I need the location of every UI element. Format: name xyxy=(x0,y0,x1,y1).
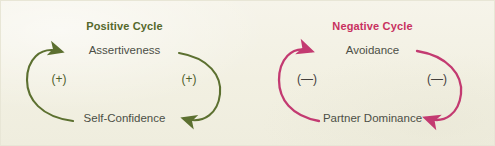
negative-cycle-sign-left: (—) xyxy=(287,72,327,86)
negative-cycle-node-bottom: Partner Dominance xyxy=(249,112,495,124)
positive-cycle-group: Positive Cycle Assertiveness Self-Confid… xyxy=(1,1,248,146)
positive-cycle-node-bottom: Self-Confidence xyxy=(1,112,248,124)
positive-cycle-node-top: Assertiveness xyxy=(1,44,248,56)
diagram-canvas: Positive Cycle Assertiveness Self-Confid… xyxy=(0,0,495,146)
negative-cycle-node-top: Avoidance xyxy=(249,44,495,56)
positive-cycle-title: Positive Cycle xyxy=(1,20,248,32)
positive-cycle-sign-right: (+) xyxy=(169,72,209,86)
negative-cycle-title: Negative Cycle xyxy=(249,20,495,32)
negative-cycle-sign-right: (—) xyxy=(417,72,457,86)
positive-cycle-sign-left: (+) xyxy=(39,72,79,86)
negative-cycle-group: Negative Cycle Avoidance Partner Dominan… xyxy=(249,1,495,146)
arc-arrow-clockwise-icon xyxy=(179,53,220,120)
